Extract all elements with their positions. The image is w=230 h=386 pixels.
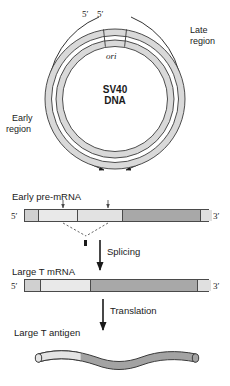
- protein-row-label: Large T antigen: [14, 328, 80, 338]
- mrna-bar-tail-segment: [198, 280, 211, 291]
- sv40-center-label-line1: SV40: [95, 85, 135, 95]
- figure-canvas: 5′ 5′ ori SV40 DNA Late region Early reg…: [0, 0, 230, 386]
- late-region-label-line2: region: [190, 36, 215, 46]
- five-prime-left-label: 5′: [82, 9, 88, 19]
- mrna-five-prime: 5′: [11, 281, 17, 291]
- mrna-bar-cap-segment: [25, 280, 41, 291]
- mrna-bar-exon1: [41, 280, 91, 291]
- mrna-row-label: Large T mRNA: [12, 267, 75, 277]
- mrna-three-prime: 3′: [213, 281, 219, 291]
- mrna-bar-coding: [91, 280, 198, 291]
- mrna-bar: [24, 279, 209, 292]
- early-region-label-line2: region: [6, 124, 31, 134]
- five-prime-right-label: 5′: [97, 9, 103, 19]
- ori-label: ori: [106, 51, 117, 61]
- early-region-label-line1: Early: [12, 113, 33, 123]
- splicing-arrow: [0, 238, 230, 284]
- sv40-center-label-line2: DNA: [95, 96, 135, 106]
- translation-label: Translation: [110, 306, 157, 316]
- splicing-label: Splicing: [107, 247, 140, 257]
- late-region-label-line1: Late: [190, 25, 208, 35]
- large-t-antigen-ribbon: [0, 338, 230, 386]
